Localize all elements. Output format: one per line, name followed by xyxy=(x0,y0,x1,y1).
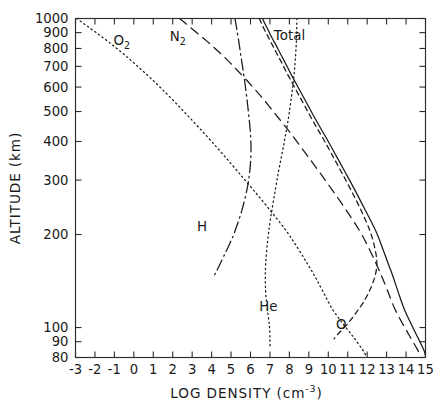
series-o2 xyxy=(76,19,366,356)
x-tick-label: 14 xyxy=(398,362,415,377)
y-tick-label: 80 xyxy=(52,350,69,365)
series-n2 xyxy=(180,19,421,356)
y-axis-ticks xyxy=(76,19,426,358)
y-tick-label: 700 xyxy=(43,59,68,74)
x-tick-label: 8 xyxy=(285,362,293,377)
x-tick-label: -1 xyxy=(108,362,121,377)
x-tick-label: 3 xyxy=(188,362,196,377)
x-axis-ticks xyxy=(76,19,426,358)
x-tick-label: 1 xyxy=(149,362,157,377)
x-tick-label: 11 xyxy=(339,362,356,377)
y-axis-title: ALTITUDE (km) xyxy=(7,132,23,244)
y-tick-label: 1000 xyxy=(35,11,69,26)
y-tick-label: 900 xyxy=(43,25,68,40)
x-tick-label: -2 xyxy=(88,362,101,377)
x-axis-title: LOG DENSITY (cm-3) xyxy=(170,383,322,401)
x-tick-label: 0 xyxy=(130,362,138,377)
plot-border xyxy=(76,19,426,358)
x-tick-label: 2 xyxy=(169,362,177,377)
x-tick-label: 4 xyxy=(207,362,215,377)
chart-figure: -3-2-10123456789101112131415 80901002003… xyxy=(0,0,448,420)
x-tick-label: 15 xyxy=(417,362,434,377)
y-tick-label: 100 xyxy=(43,320,68,335)
x-tick-label: 10 xyxy=(320,362,337,377)
x-tick-label: 13 xyxy=(378,362,395,377)
x-tick-label: 5 xyxy=(227,362,235,377)
x-axis-tick-labels: -3-2-10123456789101112131415 xyxy=(69,362,434,377)
o-curve-label: O xyxy=(336,317,347,332)
y-axis-tick-labels: 80901002003004005006007008009001000 xyxy=(35,11,69,365)
y-tick-label: 200 xyxy=(43,227,68,242)
data-series-group xyxy=(76,19,425,356)
y-tick-label: 90 xyxy=(52,334,69,349)
plot-frame xyxy=(76,19,426,358)
he-curve-label: He xyxy=(259,299,277,314)
curve-annotations: O2N2TotalHHeO xyxy=(113,28,346,332)
series-h xyxy=(213,19,251,278)
chart-svg: -3-2-10123456789101112131415 80901002003… xyxy=(0,0,448,420)
x-tick-label: 9 xyxy=(305,362,313,377)
y-tick-label: 600 xyxy=(43,80,68,95)
y-tick-label: 500 xyxy=(43,104,68,119)
series-total xyxy=(263,19,426,356)
y-tick-label: 300 xyxy=(43,173,68,188)
y-tick-label: 800 xyxy=(43,41,68,56)
x-tick-label: 12 xyxy=(359,362,376,377)
y-tick-label: 400 xyxy=(43,134,68,149)
x-tick-label: 7 xyxy=(266,362,274,377)
total-curve-label: Total xyxy=(273,28,305,43)
h-curve-label: H xyxy=(197,219,207,234)
n2-curve-label: N2 xyxy=(170,29,186,47)
x-tick-label: 6 xyxy=(246,362,254,377)
x-tick-label: -3 xyxy=(69,362,82,377)
